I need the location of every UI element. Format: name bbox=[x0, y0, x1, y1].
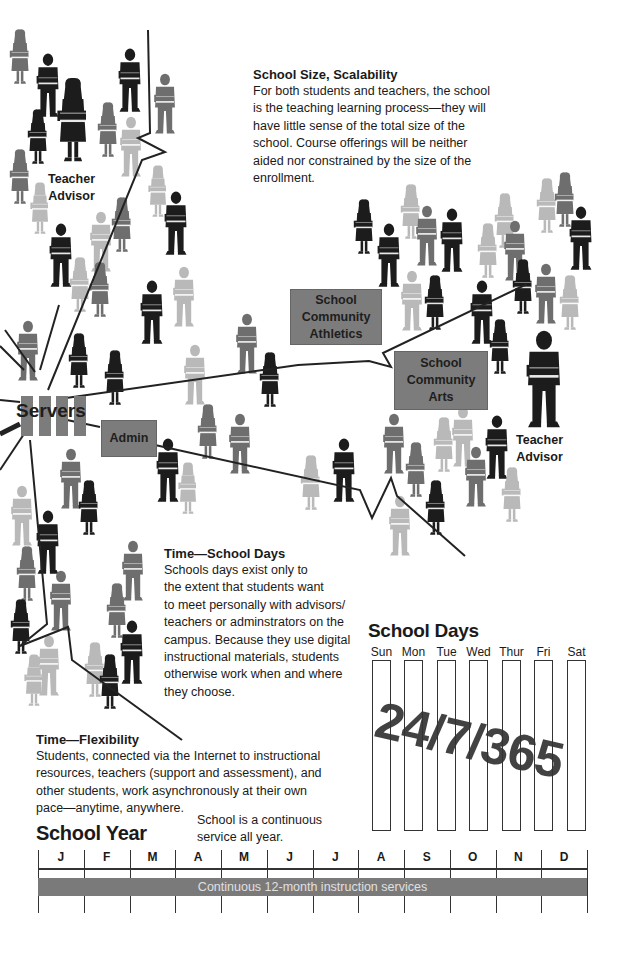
day-label-sat: Sat bbox=[557, 645, 597, 659]
athletics-line3: Athletics bbox=[310, 326, 363, 343]
school-days-line-3: teachers or adminstrators on the bbox=[164, 614, 374, 631]
school-days-line-7: they choose. bbox=[164, 684, 374, 701]
person-figure-male bbox=[165, 192, 187, 255]
person-figure-male bbox=[535, 264, 556, 324]
school-days-line-6: otherwise work when and where bbox=[164, 666, 374, 683]
person-figure-female bbox=[490, 319, 509, 373]
month-label: N bbox=[496, 850, 542, 868]
scalability-line-0: For both students and teachers, the scho… bbox=[253, 83, 553, 100]
admin-box[interactable]: Admin bbox=[101, 420, 157, 457]
month-label: J bbox=[38, 850, 84, 868]
person-figure-male bbox=[471, 281, 493, 344]
flexibility-section: Time—Flexibility Students, connected via… bbox=[36, 731, 356, 818]
school-days-line-1: the extent that students want bbox=[164, 579, 374, 596]
month-label: A bbox=[358, 850, 404, 868]
person-figure-female bbox=[560, 275, 579, 329]
month-divider bbox=[587, 850, 588, 913]
teacher-advisor-left-label: Teacher Advisor bbox=[48, 171, 95, 205]
teacher-advisor-left-line2: Advisor bbox=[48, 188, 95, 205]
person-figure-female bbox=[17, 546, 36, 600]
person-figure-female bbox=[555, 172, 574, 226]
person-figure-female bbox=[426, 480, 445, 534]
school-days-line-5: instructional materials, students bbox=[164, 649, 374, 666]
arts-line2: Community bbox=[407, 372, 476, 389]
person-figure-male bbox=[452, 407, 473, 467]
person-figure-male bbox=[401, 271, 422, 331]
day-column-sat bbox=[567, 660, 586, 831]
person-figure-male bbox=[173, 267, 194, 327]
person-figure-female bbox=[10, 29, 29, 83]
flexibility-line-2: other students, work asynchronously at t… bbox=[36, 783, 356, 800]
person-figure-male bbox=[378, 224, 400, 287]
flexibility-line-0: Students, connected via the Internet to … bbox=[36, 748, 356, 765]
school-year-title: School Year bbox=[36, 822, 147, 845]
person-figure-female bbox=[98, 102, 117, 156]
person-figure-female bbox=[434, 417, 453, 471]
teacher-advisor-left-line1: Teacher bbox=[48, 171, 95, 188]
arts-line1: School bbox=[420, 355, 462, 372]
month-label: J bbox=[267, 850, 313, 868]
athletics-line2: Community bbox=[302, 309, 371, 326]
school-days-section: Time—School Days Schools days exist only… bbox=[164, 545, 374, 701]
person-figure-female bbox=[148, 166, 166, 217]
school-year-note-line2: service all year. bbox=[197, 829, 322, 846]
scalability-line-5: enrollment. bbox=[253, 170, 553, 187]
person-figure-male bbox=[122, 541, 143, 601]
school-days-line-2: to meet personally with advisors/ bbox=[164, 597, 374, 614]
person-figure-female bbox=[69, 333, 88, 387]
person-figure-female bbox=[425, 275, 444, 329]
school-days-heading: Time—School Days bbox=[164, 545, 374, 562]
month-label: O bbox=[450, 850, 496, 868]
person-figure-male bbox=[184, 345, 205, 405]
flexibility-line-1: resources, teachers (support and assessm… bbox=[36, 765, 356, 782]
person-figure-female bbox=[198, 404, 217, 458]
person-figure-male bbox=[527, 331, 560, 427]
line-up-cluster bbox=[40, 305, 59, 370]
person-figure-male bbox=[441, 209, 463, 272]
person-figure-male bbox=[121, 621, 143, 684]
school-days-line-0: Schools days exist only to bbox=[164, 562, 374, 579]
servers-label: Servers bbox=[16, 400, 86, 422]
line-left-3 bbox=[0, 424, 20, 434]
teacher-advisor-right-line2: Advisor bbox=[516, 449, 563, 466]
person-figure-male bbox=[37, 54, 59, 117]
school-days-title: School Days bbox=[368, 620, 479, 642]
person-figure-female bbox=[354, 199, 373, 253]
person-figure-male bbox=[141, 281, 163, 344]
person-figure-female bbox=[301, 455, 320, 509]
person-figure-male bbox=[570, 207, 592, 270]
person-figure-male bbox=[236, 314, 257, 374]
arts-box[interactable]: School Community Arts bbox=[394, 351, 488, 410]
continuous-instruction-bar: Continuous 12-month instruction services bbox=[38, 878, 587, 896]
school-days-line-4: campus. Because they use digital bbox=[164, 632, 374, 649]
person-figure-male bbox=[154, 74, 175, 134]
person-figure-female bbox=[70, 257, 89, 311]
person-figure-male bbox=[120, 117, 141, 177]
person-figure-female bbox=[85, 642, 104, 696]
month-label: F bbox=[84, 850, 130, 868]
school-year-note-line1: School is a continuous bbox=[197, 812, 322, 829]
person-figure-female bbox=[28, 109, 47, 163]
person-figure-male bbox=[50, 571, 71, 631]
month-label: D bbox=[541, 850, 587, 868]
scalability-line-4: aided nor constrained by the size of the bbox=[253, 153, 553, 170]
school-year-note: School is a continuous service all year. bbox=[197, 812, 322, 847]
scalability-section: School Size, Scalability For both studen… bbox=[253, 66, 553, 187]
person-figure-female bbox=[105, 350, 124, 404]
scalability-heading: School Size, Scalability bbox=[253, 66, 553, 83]
person-figure-male bbox=[11, 486, 32, 546]
line-left-4 bbox=[0, 434, 24, 470]
month-label: S bbox=[404, 850, 450, 868]
person-figure-female bbox=[107, 583, 126, 637]
admin-label: Admin bbox=[110, 430, 149, 447]
teacher-advisor-right-label: Teacher Advisor bbox=[516, 432, 563, 466]
person-figure-male bbox=[416, 206, 437, 266]
person-figure-male bbox=[60, 449, 81, 509]
person-figure-male bbox=[383, 414, 404, 474]
athletics-box[interactable]: School Community Athletics bbox=[290, 289, 382, 345]
person-figure-male bbox=[50, 224, 72, 287]
person-figure-female bbox=[178, 463, 196, 514]
month-label: A bbox=[175, 850, 221, 868]
person-figure-female bbox=[406, 442, 425, 496]
person-figure-male bbox=[333, 439, 355, 502]
